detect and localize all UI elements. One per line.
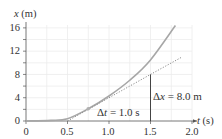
x-tick-label: 1.5 (140, 127, 160, 138)
x-tick-label: 0.5 (57, 127, 77, 138)
y-tick-label: 0 (6, 116, 20, 127)
y-tick-label: 12 (6, 46, 20, 57)
x-tick-label: 0 (16, 127, 36, 138)
y-axis-title: x (m) (14, 9, 36, 20)
y-tick-label: 8 (6, 70, 20, 81)
y-tick-label: 16 (6, 23, 20, 34)
x-tick-label: 1.0 (98, 127, 118, 138)
delta-x-annotation: Δx = 8.0 m (153, 91, 202, 102)
chart-canvas (0, 0, 222, 139)
tangent-point-marker (86, 107, 90, 111)
delta-t-annotation: Δt = 1.0 s (97, 107, 140, 118)
x-tick-label: 2.0 (182, 127, 202, 138)
y-tick-label: 4 (6, 93, 20, 104)
x-axis-title: t (s) (197, 116, 214, 127)
